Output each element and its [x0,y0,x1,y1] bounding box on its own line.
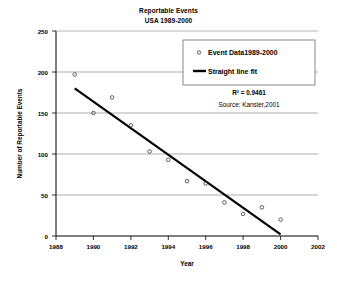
y-axis-title: Number of Reportable Events [16,88,24,178]
y-tick-marks [52,31,56,236]
x-tick-label: 1996 [199,243,213,250]
legend-box [183,40,315,85]
legend-label-fit: Straight line fit [208,68,258,76]
annotation-source: Source: Kansler,2001 [218,101,280,108]
x-tick-label: 2002 [311,243,325,250]
chart-legend: Event Data1989-2000 Straight line fit [183,40,315,85]
x-tick-label: 1990 [87,243,101,250]
chart-plot-svg: 250 200 150 100 50 0 1988 1990 1992 1994… [0,0,337,284]
annotation-r-squared: R² = 0.9461 [232,89,266,96]
x-tick-label: 1992 [124,243,138,250]
y-tick-label: 0 [45,233,49,240]
chart-container: Reportable Events USA 1989-2000 250 200 [0,0,337,284]
y-tick-label: 150 [38,110,49,117]
y-tick-label: 250 [38,28,49,35]
x-tick-label: 2000 [274,243,288,250]
x-tick-marks [56,236,318,240]
legend-label-events: Event Data1989-2000 [208,49,278,56]
y-tick-label: 100 [38,151,49,158]
y-tick-label: 200 [38,69,49,76]
x-tick-label: 1988 [49,243,63,250]
y-tick-label: 50 [41,192,48,199]
x-tick-label: 1998 [236,243,250,250]
x-axis-title: Year [180,260,194,267]
x-tick-label: 1994 [161,243,175,250]
